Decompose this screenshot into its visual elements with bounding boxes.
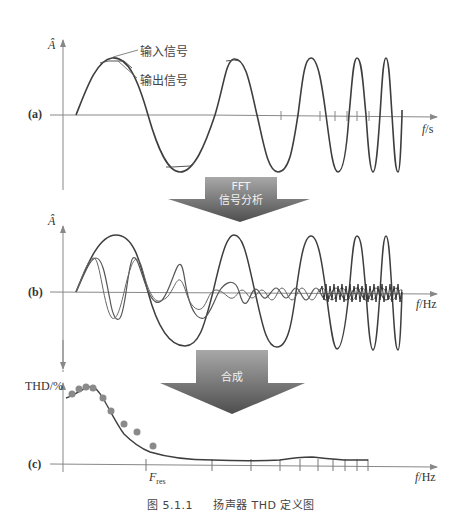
caption-number: 图 5.1.1 [147, 499, 193, 512]
panel-b-y-label: Â [48, 214, 55, 229]
panel-b-third-harmonic [76, 258, 402, 318]
caption-title: 扬声器 THD 定义图 [213, 499, 315, 512]
fres-sub: res [156, 477, 165, 486]
panel-a-axes [50, 40, 437, 190]
legend-input-signal: 输入信号 [140, 42, 188, 59]
panel-c-tag: (c) [28, 457, 41, 472]
panel-b-x-unit: /Hz [419, 297, 436, 311]
panel-c-y-label: THD/% [25, 379, 63, 394]
panel-a-x-unit: /s [425, 122, 433, 136]
thd-definition-figure: Â 输入信号 输出信号 (a) f/s FFT 信号分析 Â (b) f/Hz … [0, 0, 462, 528]
legend-output-signal: 输出信号 [140, 71, 188, 88]
figure-caption: 图 5.1.1 扬声器 THD 定义图 [0, 496, 462, 512]
panel-b-tag: (b) [28, 285, 43, 300]
panel-a-y-label: Â [48, 38, 55, 53]
resonance-frequency-label: Fres [149, 470, 166, 486]
synthesis-arrow-line1: 合成 [196, 371, 268, 385]
fft-arrow-label: FFT 信号分析 [205, 180, 277, 208]
fft-arrow-line2: 信号分析 [205, 194, 277, 208]
panel-b-x-label: f/Hz [416, 297, 437, 312]
panel-a-tag: (a) [28, 107, 42, 122]
synthesis-arrow-label: 合成 [196, 371, 268, 385]
panel-c-x-label: f/Hz [415, 470, 436, 485]
panel-c-x-unit: /Hz [418, 470, 435, 484]
fft-arrow-line1: FFT [205, 180, 277, 194]
panel-a-x-label: f/s [422, 122, 433, 137]
